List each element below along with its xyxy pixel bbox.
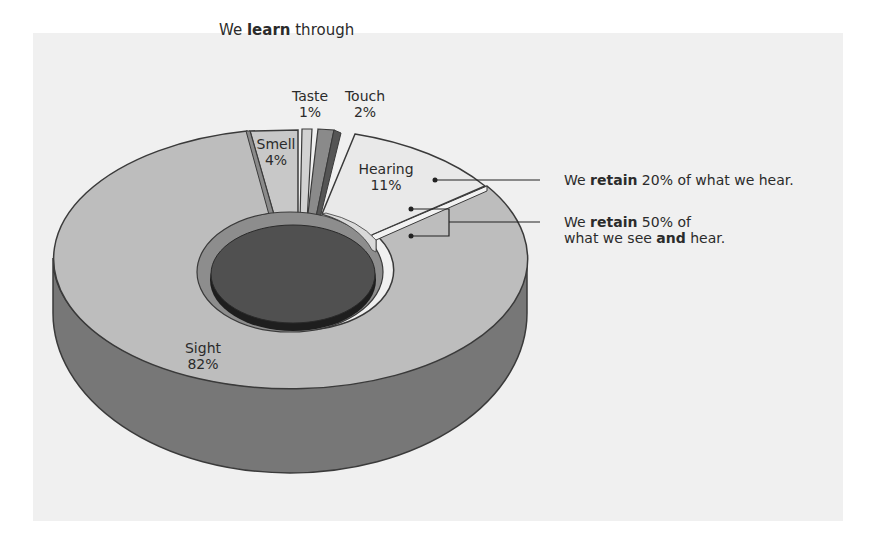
annotation-see-hear: We retain 50% of what we see and hear. bbox=[564, 214, 725, 246]
label-taste: Taste 1% bbox=[290, 88, 330, 120]
hole-center bbox=[211, 225, 375, 323]
label-sight: Sight 82% bbox=[178, 340, 228, 372]
label-smell: Smell 4% bbox=[256, 136, 296, 168]
label-hearing: Hearing 11% bbox=[356, 161, 416, 193]
annotation-hearing: We retain 20% of what we hear. bbox=[564, 172, 794, 188]
donut-chart bbox=[0, 0, 886, 542]
label-touch: Touch 2% bbox=[340, 88, 390, 120]
chart-title: We learn through bbox=[219, 22, 354, 38]
